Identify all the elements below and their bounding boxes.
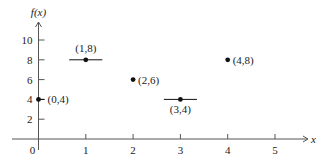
point-marker (225, 57, 230, 62)
point-label: (1,8) (75, 42, 96, 55)
x-tick-label: 4 (225, 144, 231, 156)
x-tick-label: 5 (272, 144, 278, 156)
y-tick-label: 4 (27, 93, 33, 105)
point-label: (4,8) (233, 54, 254, 67)
y-tick-label: 6 (27, 74, 33, 86)
y-tick-label: 2 (27, 113, 33, 125)
y-tick-label: 10 (22, 34, 34, 46)
x-tick-label: 2 (130, 144, 136, 156)
point-label: (3,4) (170, 103, 191, 116)
data-point: (2,6) (131, 74, 160, 87)
data-point: (3,4) (164, 97, 197, 116)
function-plot: xf(x) 012345246810 (0,4)(1,8)(2,6)(3,4)(… (0, 0, 329, 163)
plot-canvas: xf(x) 012345246810 (0,4)(1,8)(2,6)(3,4)(… (0, 0, 329, 163)
data-point: (1,8) (69, 42, 102, 62)
x-tick-label: 1 (83, 144, 89, 156)
axes: xf(x) (12, 6, 316, 150)
x-axis-label: x (310, 133, 316, 145)
point-label: (2,6) (138, 74, 159, 87)
point-label: (0,4) (48, 93, 69, 106)
point-marker (36, 97, 41, 102)
point-marker (178, 97, 183, 102)
data-point: (0,4) (36, 93, 69, 106)
point-marker (131, 77, 136, 82)
y-axis-label: f(x) (31, 6, 47, 19)
data-point: (4,8) (225, 54, 254, 67)
x-tick-label: 3 (178, 144, 184, 156)
point-marker (83, 57, 88, 62)
data-points: (0,4)(1,8)(2,6)(3,4)(4,8) (36, 42, 254, 117)
y-tick-label: 8 (27, 54, 33, 66)
x-tick-label: 0 (30, 144, 36, 156)
